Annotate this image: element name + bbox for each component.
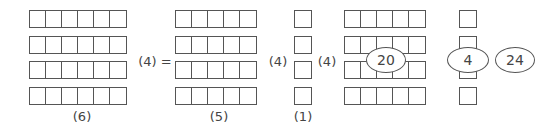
- grid-cell: [360, 87, 378, 105]
- grid-row: [29, 36, 127, 54]
- grid-cell: [93, 87, 111, 105]
- grid-cell: [376, 10, 394, 28]
- grid-row: [294, 87, 312, 105]
- grid-cell: [109, 61, 127, 79]
- grid-cell: [77, 61, 95, 79]
- grid-row: [459, 10, 477, 28]
- grid-cell: [61, 36, 79, 54]
- grid-row: [175, 87, 257, 105]
- grid-cell: [191, 61, 209, 79]
- grid-cell: [29, 10, 47, 28]
- grid-cell: [93, 36, 111, 54]
- grid-row: [294, 61, 312, 79]
- grid-cell: [408, 87, 426, 105]
- grid-cell: [344, 61, 362, 79]
- grid-cell: [239, 10, 257, 28]
- grid-cell: [29, 36, 47, 54]
- grid-row: [175, 36, 257, 54]
- grid-cell: [29, 87, 47, 105]
- operator-times-4-equals: (4) =: [138, 54, 171, 69]
- product-ellipse: 20: [366, 47, 406, 73]
- grid-cell: [77, 87, 95, 105]
- grid-cell: [207, 10, 225, 28]
- grid-cell: [360, 10, 378, 28]
- grid-cell: [207, 61, 225, 79]
- product-ellipse: 24: [495, 47, 535, 73]
- grid-cell: [459, 10, 477, 28]
- grid-cell: [294, 36, 312, 54]
- grid-row: [294, 36, 312, 54]
- grid-row: [29, 87, 127, 105]
- grid-cell: [408, 61, 426, 79]
- grid-cell: [344, 10, 362, 28]
- product-ellipse: 4: [447, 47, 489, 73]
- operator-times-4: (4): [269, 54, 287, 69]
- grid-cell: [223, 61, 241, 79]
- grid-label-6: (6): [73, 109, 91, 124]
- grid-cell: [175, 36, 193, 54]
- grid-cell: [93, 10, 111, 28]
- grid-cell: [459, 87, 477, 105]
- grid-cell: [392, 87, 410, 105]
- grid-cell: [191, 36, 209, 54]
- grid-cell: [109, 36, 127, 54]
- grid-cell: [392, 10, 410, 28]
- grid-cell: [61, 10, 79, 28]
- grid-cell: [45, 10, 63, 28]
- grid-row: [175, 61, 257, 79]
- grid-cell: [376, 87, 394, 105]
- grid-cell: [45, 36, 63, 54]
- grid-cell: [45, 61, 63, 79]
- grid-cell: [175, 10, 193, 28]
- grid-cell: [61, 61, 79, 79]
- grid-row: [344, 10, 426, 28]
- grid-cell: [239, 87, 257, 105]
- grid-cell: [344, 87, 362, 105]
- grid-cell: [223, 36, 241, 54]
- grid-cell: [109, 87, 127, 105]
- grid-cell: [408, 10, 426, 28]
- grid-cell: [294, 61, 312, 79]
- grid-row: [459, 87, 477, 105]
- grid-cell: [294, 10, 312, 28]
- grid-cell: [223, 10, 241, 28]
- grid-cell: [29, 61, 47, 79]
- grid-cell: [77, 36, 95, 54]
- grid-label-1: (1): [294, 109, 312, 124]
- grid-cell: [175, 87, 193, 105]
- grid-cell: [207, 36, 225, 54]
- grid-row: [29, 10, 127, 28]
- grid-cell: [239, 61, 257, 79]
- grid-row: [175, 10, 257, 28]
- grid-cell: [77, 10, 95, 28]
- grid-cell: [109, 10, 127, 28]
- grid-cell: [45, 87, 63, 105]
- grid-cell: [239, 36, 257, 54]
- grid-cell: [61, 87, 79, 105]
- grid-cell: [175, 61, 193, 79]
- grid-row: [294, 10, 312, 28]
- grid-cell: [93, 61, 111, 79]
- grid-cell: [344, 36, 362, 54]
- grid-cell: [408, 36, 426, 54]
- grid-cell: [294, 87, 312, 105]
- grid-row: [29, 61, 127, 79]
- grid-cell: [191, 10, 209, 28]
- grid-cell: [223, 87, 241, 105]
- grid-cell: [207, 87, 225, 105]
- operator-times-4: (4): [318, 54, 336, 69]
- grid-row: [344, 87, 426, 105]
- grid-label-5: (5): [210, 109, 228, 124]
- grid-cell: [191, 87, 209, 105]
